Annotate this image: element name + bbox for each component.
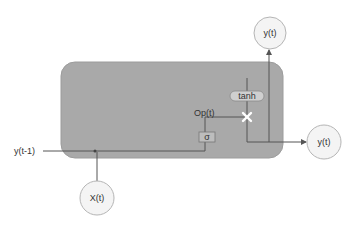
gate-output-label: Op(t) bbox=[194, 108, 215, 118]
input-label: X(t) bbox=[90, 193, 105, 203]
sigma-label: σ bbox=[204, 132, 210, 142]
output-right-node: y(t) bbox=[307, 125, 341, 159]
input-node: X(t) bbox=[80, 181, 114, 215]
output-top-label: y(t) bbox=[264, 28, 277, 38]
lstm-cell-box bbox=[61, 62, 283, 158]
junction-dot bbox=[94, 150, 97, 153]
output-right-label: y(t) bbox=[318, 137, 331, 147]
sigma-gate: σ bbox=[199, 132, 215, 142]
output-top-node: y(t) bbox=[254, 17, 286, 49]
lstm-output-gate-diagram: σ Op(t) tanh y(t-1) X(t) y(t) y(t) bbox=[0, 0, 360, 230]
tanh-node: tanh bbox=[230, 91, 264, 101]
prev-output-label: y(t-1) bbox=[14, 146, 35, 156]
tanh-label: tanh bbox=[238, 91, 256, 101]
